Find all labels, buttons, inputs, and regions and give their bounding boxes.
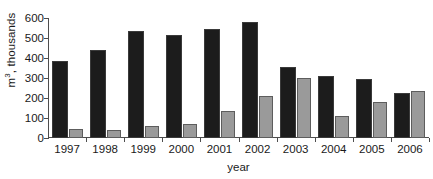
bar xyxy=(373,102,387,138)
x-tick-label: 2002 xyxy=(239,142,277,156)
bar xyxy=(297,78,311,138)
bar xyxy=(411,91,425,138)
x-tick-label: 1997 xyxy=(48,142,86,156)
bar xyxy=(280,67,296,138)
x-axis-tick-labels: 1997199819992000200120022003200420052006 xyxy=(48,142,429,158)
bar xyxy=(52,61,68,138)
bar xyxy=(259,96,273,138)
bar-group xyxy=(318,18,349,138)
bar-group xyxy=(204,18,235,138)
bar xyxy=(204,29,220,138)
bar-group xyxy=(356,18,387,138)
y-tick-mark xyxy=(44,18,48,19)
bar-group xyxy=(394,18,425,138)
y-tick-label: 100 xyxy=(16,112,44,124)
y-tick-mark xyxy=(44,98,48,99)
y-tick-label: 200 xyxy=(16,92,44,104)
bar-chart: m3, thousands 0100200300400500600 199719… xyxy=(0,0,433,179)
bar xyxy=(356,79,372,138)
x-tick-mark xyxy=(429,138,430,142)
y-tick-label: 400 xyxy=(16,52,44,64)
bar-group xyxy=(128,18,159,138)
x-tick-label: 2000 xyxy=(162,142,200,156)
y-tick-label: 300 xyxy=(16,72,44,84)
bar xyxy=(183,124,197,138)
x-tick-label: 2005 xyxy=(353,142,391,156)
y-axis-tick-labels: 0100200300400500600 xyxy=(16,0,44,179)
bar xyxy=(145,126,159,138)
y-tick-label: 600 xyxy=(16,12,44,24)
bar xyxy=(394,93,410,138)
bar xyxy=(335,116,349,138)
x-tick-label: 2006 xyxy=(391,142,429,156)
bars-layer xyxy=(48,18,429,138)
bar xyxy=(69,129,83,138)
x-tick-label: 2003 xyxy=(277,142,315,156)
y-tick-label: 500 xyxy=(16,32,44,44)
bar-group xyxy=(242,18,273,138)
bar xyxy=(318,76,334,138)
bar xyxy=(128,31,144,138)
y-tick-mark xyxy=(44,78,48,79)
x-axis-title: year xyxy=(48,160,429,174)
y-tick-mark xyxy=(44,58,48,59)
x-tick-label: 2004 xyxy=(315,142,353,156)
bar-group xyxy=(90,18,121,138)
bar xyxy=(221,111,235,138)
y-tick-label: 0 xyxy=(16,132,44,144)
y-tick-mark xyxy=(44,138,48,139)
x-tick-label: 1999 xyxy=(124,142,162,156)
bar-group xyxy=(166,18,197,138)
plot-area xyxy=(48,18,429,138)
y-tick-mark xyxy=(44,38,48,39)
x-tick-label: 1998 xyxy=(86,142,124,156)
bar-group xyxy=(280,18,311,138)
bar xyxy=(166,35,182,138)
x-tick-label: 2001 xyxy=(200,142,238,156)
bar-group xyxy=(52,18,83,138)
y-tick-mark xyxy=(44,118,48,119)
bar xyxy=(90,50,106,138)
y-axis-title-superscript: 3 xyxy=(3,73,12,78)
bar xyxy=(107,130,121,138)
bar xyxy=(242,22,258,138)
